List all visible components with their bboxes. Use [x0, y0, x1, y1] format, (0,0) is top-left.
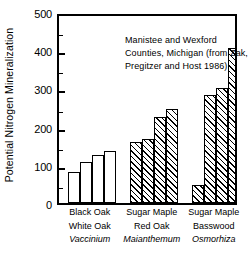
- y-axis-minor-tick: [59, 73, 63, 74]
- bar: [154, 117, 166, 203]
- x-group-label-line: Sugar Maple: [172, 206, 250, 220]
- y-axis-major-tick: [59, 91, 65, 93]
- bar: [142, 139, 154, 203]
- y-axis-minor-tick: [59, 150, 63, 151]
- x-group-label: Sugar MapleBasswoodOsmorhiza: [172, 206, 250, 247]
- bar: [80, 162, 92, 203]
- bar: [68, 172, 80, 203]
- chart-annotation: Manistee and WexfordCounties, Michigan (…: [125, 34, 250, 73]
- annotation-line: Manistee and Wexford: [125, 34, 250, 47]
- y-tick-label: 400: [34, 46, 52, 58]
- annotation-line: Counties, Michigan (from Zak,: [125, 47, 250, 60]
- chart-figure: Potential Nitrogen Mineralization 010020…: [0, 0, 250, 262]
- y-axis-minor-tick: [59, 188, 63, 189]
- y-axis-major-tick: [59, 130, 65, 132]
- bar: [192, 185, 204, 203]
- bar: [216, 88, 228, 203]
- bar: [92, 155, 104, 203]
- bar: [204, 95, 216, 203]
- y-axis-major-tick: [59, 168, 65, 170]
- x-axis-group-labels: Black OakWhite OakVacciniumSugar MapleRe…: [57, 206, 237, 262]
- y-tick-label: 200: [34, 123, 52, 135]
- annotation-line: Pregitzer and Host 1986): [125, 60, 250, 73]
- plot-frame: Manistee and WexfordCounties, Michigan (…: [57, 14, 237, 205]
- y-tick-label: 100: [34, 161, 52, 173]
- bar: [130, 142, 142, 203]
- y-tick-label: 500: [34, 8, 52, 20]
- bar: [104, 151, 116, 203]
- x-group-label-line: Osmorhiza: [172, 233, 250, 247]
- y-axis-major-tick: [59, 53, 65, 55]
- y-axis-minor-tick: [59, 35, 63, 36]
- y-axis-title-text: Potential Nitrogen Mineralization: [3, 28, 15, 182]
- y-axis-minor-tick: [59, 112, 63, 113]
- x-group-label-line: Basswood: [172, 220, 250, 234]
- bar: [166, 109, 178, 203]
- y-axis-title: Potential Nitrogen Mineralization: [0, 0, 18, 210]
- y-tick-label: 300: [34, 84, 52, 96]
